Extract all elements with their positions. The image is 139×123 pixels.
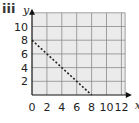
x-tick-label: 2 [43,101,50,114]
x-tick-label: 12 [114,101,128,114]
coordinate-grid-chart: 024681012246810xy [0,0,139,123]
y-axis-arrow-icon [29,9,35,15]
x-tick-label: 0 [29,101,36,114]
x-tick-label: 6 [73,101,80,114]
x-tick-label: 4 [58,101,65,114]
x-axis-label: x [135,99,139,112]
y-tick-label: 2 [21,75,28,88]
y-tick-label: 4 [21,62,28,75]
y-tick-label: 8 [21,34,28,47]
y-tick-label: 6 [21,48,28,61]
x-tick-label: 8 [88,101,95,114]
x-tick-label: 10 [100,101,114,114]
y-axis-label: y [22,4,30,17]
x-axis-arrow-icon [126,92,132,98]
y-tick-label: 10 [14,21,28,34]
